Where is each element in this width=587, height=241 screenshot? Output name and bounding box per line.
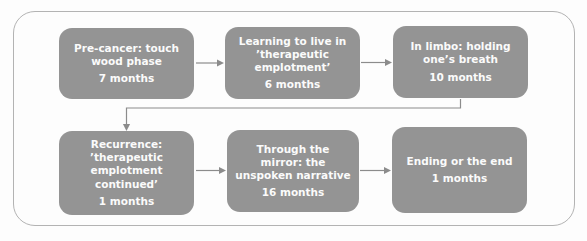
node-label: Through the mirror: the unspoken narrati… [235, 143, 351, 182]
node-duration: 10 months [429, 71, 492, 84]
flow-node-pre-cancer: Pre-cancer: touch wood phase 7 months [59, 28, 194, 99]
node-duration: 1 months [432, 172, 487, 185]
node-duration: 16 months [262, 186, 325, 199]
node-label: Recurrence: ’therapeutic emplotment cont… [67, 138, 186, 191]
node-label: In limbo: holding one’s breath [401, 40, 520, 66]
node-duration: 1 months [99, 195, 154, 208]
node-duration: 6 months [265, 78, 320, 91]
node-label: Pre-cancer: touch wood phase [67, 42, 186, 68]
flow-node-learning-to-live: Learning to live in ’therapeutic emplotm… [225, 27, 360, 99]
flow-node-recurrence: Recurrence: ’therapeutic emplotment cont… [59, 131, 194, 215]
node-label: Learning to live in ’therapeutic emplotm… [233, 35, 352, 74]
node-label: Ending or the end [407, 155, 513, 168]
flow-node-through-the-mirror: Through the mirror: the unspoken narrati… [227, 130, 359, 212]
flow-node-in-limbo: In limbo: holding one’s breath 10 months [393, 26, 528, 98]
flow-node-ending: Ending or the end 1 months [392, 127, 527, 213]
node-duration: 7 months [99, 72, 154, 85]
